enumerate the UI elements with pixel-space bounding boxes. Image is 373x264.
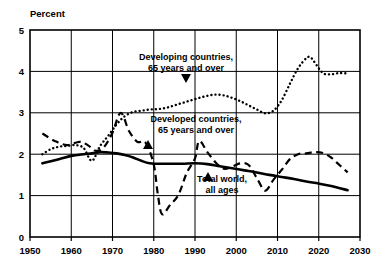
annotation-label-line1: Developing countries, (139, 52, 233, 62)
chart-container: Percent 012345 1950196019701980199020002… (0, 0, 373, 264)
x-tick-label: 1960 (61, 245, 82, 256)
y-tick-label: 2 (19, 149, 24, 160)
annotation-label-line2: 65 years and over (148, 63, 225, 73)
x-tick-label: 1980 (143, 245, 164, 256)
x-tick-label: 2020 (308, 245, 329, 256)
y-tick-label: 0 (19, 232, 24, 243)
annotation-label-line2: all ages (205, 185, 238, 195)
x-tick-label: 2030 (349, 245, 370, 256)
annotation-label-line2: 65 years and over (158, 125, 235, 135)
x-tick-label: 1990 (184, 245, 205, 256)
y-tick-label: 5 (19, 25, 25, 36)
x-tick-label: 2000 (226, 245, 247, 256)
x-tick-label: 1970 (102, 245, 123, 256)
y-tick-label: 4 (19, 66, 25, 77)
x-tick-label: 1950 (19, 245, 40, 256)
annotation-label-line1: Developed countries, (150, 114, 241, 124)
population-growth-line-chart: Percent 012345 1950196019701980199020002… (0, 0, 373, 264)
y-tick-label: 3 (19, 107, 24, 118)
y-axis-title: Percent (30, 8, 66, 19)
x-tick-label: 2010 (267, 245, 288, 256)
y-tick-label: 1 (19, 190, 25, 201)
